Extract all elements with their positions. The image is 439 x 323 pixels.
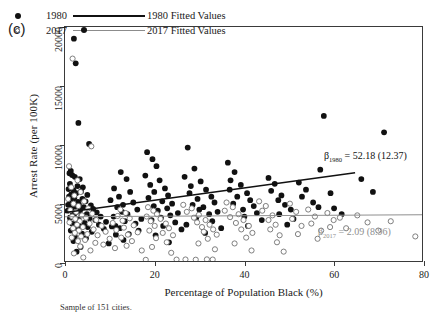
data-point — [331, 205, 337, 211]
data-point — [273, 222, 278, 227]
data-point — [95, 233, 100, 238]
data-point — [125, 232, 130, 237]
data-point — [275, 197, 281, 203]
data-point — [381, 129, 387, 135]
data-point — [240, 207, 246, 213]
data-point — [90, 211, 95, 216]
data-point — [241, 217, 246, 222]
y-tick-label: 10000 — [53, 145, 64, 170]
x-tick — [155, 261, 156, 266]
data-point — [196, 212, 201, 217]
data-point — [321, 113, 327, 119]
figure-panel-c: (c) Arrest Rate (per 100K) 0500010000150… — [0, 0, 439, 323]
data-point — [210, 257, 215, 261]
data-point — [146, 195, 152, 201]
data-point — [388, 219, 393, 224]
legend: 1980 1980 Fitted Values 2017 2017 Fitted… — [12, 8, 226, 38]
data-point — [257, 199, 262, 204]
data-point — [331, 217, 336, 222]
data-point — [174, 257, 179, 261]
data-point — [203, 217, 208, 222]
data-point — [184, 209, 189, 214]
data-point — [131, 223, 136, 228]
data-point — [198, 179, 204, 185]
data-point — [169, 201, 175, 207]
data-point — [232, 169, 238, 175]
data-point — [124, 176, 130, 182]
y-tick-label: 5000 — [53, 204, 64, 224]
data-point — [413, 234, 418, 239]
open-circle-icon — [12, 28, 46, 33]
data-point — [114, 227, 119, 232]
data-point — [316, 204, 322, 210]
data-point — [203, 187, 209, 193]
legend-label-1980: 1980 — [46, 8, 67, 23]
data-point — [88, 248, 93, 253]
data-point — [129, 239, 134, 244]
x-tick — [65, 261, 66, 266]
x-tick — [245, 261, 246, 266]
data-point — [75, 178, 80, 183]
data-point — [103, 229, 108, 234]
data-point — [82, 199, 87, 204]
data-point — [144, 149, 150, 155]
data-point — [175, 210, 181, 216]
data-point — [147, 228, 152, 233]
legend-label-2017-fit: 2017 Fitted Values — [147, 23, 226, 38]
data-point — [299, 223, 304, 228]
data-point — [111, 186, 117, 192]
x-axis-label: Percentage of Population Black (%) — [64, 286, 423, 298]
data-point — [123, 210, 128, 215]
data-point — [195, 196, 201, 202]
line-with-dot-icon — [73, 23, 147, 38]
data-point — [154, 163, 160, 169]
data-point — [82, 237, 87, 242]
x-tick-label: 20 — [150, 269, 160, 280]
data-point — [118, 207, 123, 212]
data-point — [121, 225, 126, 230]
data-point — [143, 257, 148, 261]
data-point — [67, 220, 72, 225]
data-point — [69, 185, 74, 190]
data-point — [119, 235, 124, 240]
data-point — [310, 200, 316, 206]
data-point — [295, 232, 300, 237]
data-point — [222, 208, 227, 213]
data-point — [83, 215, 88, 220]
legend-label-1980-fit: 1980 Fitted Values — [147, 8, 226, 23]
filled-circle-icon — [12, 13, 46, 19]
data-point — [277, 233, 282, 238]
data-point — [287, 201, 292, 206]
data-point — [279, 193, 285, 199]
data-point — [189, 206, 194, 211]
data-point — [166, 226, 171, 231]
data-point — [274, 240, 279, 245]
data-point — [251, 203, 257, 209]
data-point — [288, 207, 294, 213]
data-point — [139, 248, 144, 253]
data-point — [281, 249, 286, 254]
y-axis-label: Arrest Rate (per 100K) — [27, 61, 39, 231]
data-point — [148, 219, 153, 224]
data-point — [312, 214, 317, 219]
data-point — [76, 203, 81, 208]
data-point — [66, 164, 71, 169]
data-point — [127, 189, 133, 195]
data-point — [107, 236, 112, 241]
data-point — [164, 240, 169, 245]
data-point — [358, 176, 364, 182]
data-point — [284, 222, 290, 228]
data-point — [207, 222, 212, 227]
data-point — [110, 220, 115, 225]
data-point — [93, 240, 98, 245]
data-point — [78, 244, 83, 249]
data-point — [214, 232, 219, 237]
data-point — [183, 222, 189, 228]
data-point — [208, 194, 214, 200]
data-point — [76, 120, 82, 126]
data-point — [266, 175, 272, 181]
data-point — [309, 221, 314, 226]
data-point — [112, 246, 117, 251]
data-point — [179, 227, 185, 233]
data-point — [268, 227, 273, 232]
